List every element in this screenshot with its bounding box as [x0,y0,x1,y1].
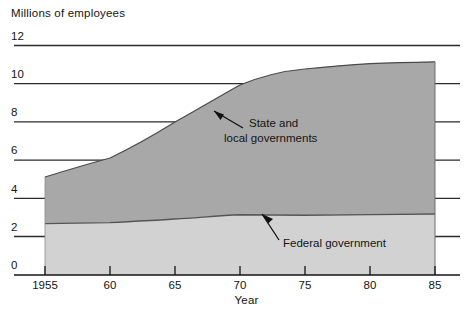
employment-area-chart: Millions of employees [0,0,475,314]
annotation-state-and-local-line1: State and [249,117,298,129]
y-tick-label-2: 2 [11,221,17,233]
x-tick-label-1965: 65 [169,279,182,291]
x-axis-title: Year [0,294,475,306]
y-tick-label-0: 0 [11,259,17,271]
chart-plot-area: State and local governments Federal gove… [0,0,475,314]
y-tick-label-10: 10 [11,68,24,80]
y-tick-label-8: 8 [11,106,17,118]
x-tick-label-1975: 75 [299,279,312,291]
x-tick-label-1980: 80 [364,279,377,291]
x-tick-label-1955: 1955 [32,279,58,291]
x-tick-label-1970: 70 [234,279,247,291]
annotation-federal-government: Federal government [283,237,387,249]
x-tick-label-1985: 85 [429,279,442,291]
x-tick-label-1960: 60 [104,279,117,291]
y-tick-label-6: 6 [11,144,17,156]
annotation-state-and-local-line2: local governments [224,132,318,144]
y-tick-label-4: 4 [11,183,17,195]
y-tick-label-12: 12 [11,30,24,42]
